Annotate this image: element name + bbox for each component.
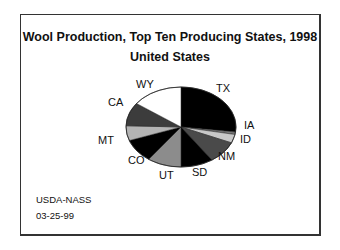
label-co: CO [128,155,145,166]
date-note: 03-25-99 [36,210,74,221]
source-note: USDA-NASS [36,194,91,205]
label-wy: WY [136,79,154,90]
label-sd: SD [192,167,207,178]
label-mt: MT [98,135,114,146]
label-ut: UT [159,170,174,181]
label-id: ID [240,134,251,145]
label-tx: TX [216,83,230,94]
label-ia: IA [244,120,254,131]
label-ca: CA [108,97,123,108]
label-nm: NM [218,151,235,162]
